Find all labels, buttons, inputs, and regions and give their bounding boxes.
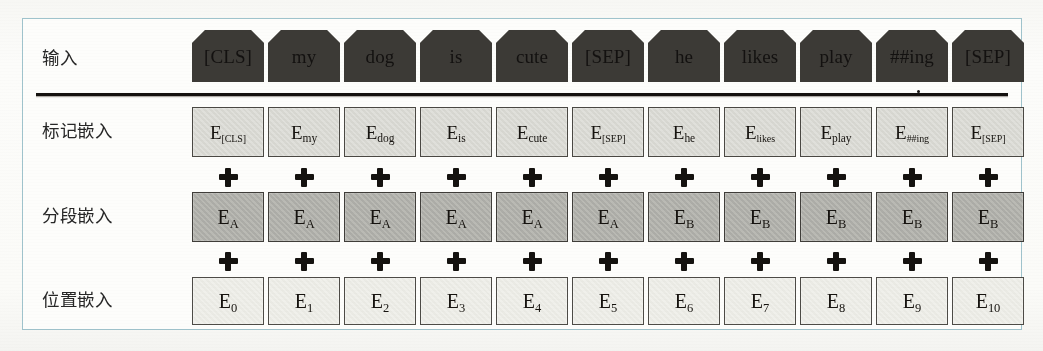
segment-embedding-cell[interactable]: EB: [876, 192, 948, 242]
segment-embedding-cell[interactable]: EA: [496, 192, 568, 242]
segment-embedding-cell[interactable]: EB: [648, 192, 720, 242]
embedding-base: E: [599, 290, 611, 312]
embedding-symbol: E[CLS]: [210, 123, 246, 142]
plus-operator-cell: [192, 250, 264, 272]
token-embedding-cell[interactable]: Edog: [344, 107, 416, 157]
input-token-cell[interactable]: cute: [496, 30, 568, 82]
embedding-subscript: 6: [687, 301, 693, 315]
segment-embedding-row: EAEAEAEAEAEAEBEBEBEBEB: [192, 192, 1024, 242]
plus-icon: [295, 252, 314, 271]
embedding-subscript: B: [914, 217, 922, 231]
input-token-cell[interactable]: [CLS]: [192, 30, 264, 82]
embedding-base: E: [895, 122, 907, 143]
token-embedding-cell[interactable]: Eplay: [800, 107, 872, 157]
embedding-subscript: 2: [383, 301, 389, 315]
position-embedding-cell[interactable]: E8: [800, 277, 872, 325]
embedding-subscript: B: [686, 217, 694, 231]
token-embedding-cell[interactable]: Ehe: [648, 107, 720, 157]
embedding-base: E: [371, 290, 383, 312]
embedding-base: E: [521, 206, 533, 228]
plus-operator-cell: [648, 250, 720, 272]
segment-embedding-cell[interactable]: EB: [952, 192, 1024, 242]
input-token-cell[interactable]: likes: [724, 30, 796, 82]
position-embedding-cell[interactable]: E4: [496, 277, 568, 325]
embedding-subscript: play: [832, 132, 851, 144]
embedding-symbol: EA: [445, 207, 466, 227]
embedding-base: E: [295, 290, 307, 312]
position-embedding-row: E0E1E2E3E4E5E6E7E8E9E10: [192, 277, 1024, 325]
embedding-symbol: E10: [976, 291, 1001, 311]
segment-embedding-cell[interactable]: EA: [572, 192, 644, 242]
embedding-symbol: E9: [903, 291, 921, 311]
input-token-cell[interactable]: [SEP]: [952, 30, 1024, 82]
position-embedding-cell[interactable]: E7: [724, 277, 796, 325]
input-token-label: my: [292, 47, 316, 66]
plus-icon: [219, 168, 238, 187]
plus-operator-cell: [420, 250, 492, 272]
embedding-subscript: 8: [839, 301, 845, 315]
embedding-symbol: Eplay: [820, 123, 851, 142]
plus-operator-cell: [268, 250, 340, 272]
position-embedding-cell[interactable]: E6: [648, 277, 720, 325]
embedding-base: E: [445, 206, 457, 228]
separator-nib: [917, 90, 920, 93]
embedding-subscript: B: [990, 217, 998, 231]
input-token-cell[interactable]: my: [268, 30, 340, 82]
position-embedding-cell[interactable]: E3: [420, 277, 492, 325]
token-embedding-cell[interactable]: E[SEP]: [572, 107, 644, 157]
plus-icon: [675, 252, 694, 271]
input-token-cell[interactable]: [SEP]: [572, 30, 644, 82]
embedding-base: E: [523, 290, 535, 312]
input-token-cell[interactable]: he: [648, 30, 720, 82]
input-token-cell[interactable]: play: [800, 30, 872, 82]
plus-operator-row-token-segment: [192, 166, 1024, 188]
embedding-subscript: is: [458, 132, 465, 144]
token-embedding-cell[interactable]: Ecute: [496, 107, 568, 157]
plus-operator-cell: [344, 250, 416, 272]
token-embedding-cell[interactable]: E[CLS]: [192, 107, 264, 157]
embedding-base: E: [976, 290, 988, 312]
segment-embedding-cell[interactable]: EA: [344, 192, 416, 242]
embedding-subscript: A: [458, 217, 467, 231]
segment-embedding-cell[interactable]: EB: [724, 192, 796, 242]
segment-embedding-cell[interactable]: EA: [192, 192, 264, 242]
plus-icon: [219, 252, 238, 271]
segment-embedding-cell[interactable]: EB: [800, 192, 872, 242]
token-embedding-cell[interactable]: E[SEP]: [952, 107, 1024, 157]
input-token-cell[interactable]: dog: [344, 30, 416, 82]
input-token-cell[interactable]: is: [420, 30, 492, 82]
segment-embedding-cell[interactable]: EA: [268, 192, 340, 242]
position-embedding-cell[interactable]: E2: [344, 277, 416, 325]
position-embedding-cell[interactable]: E0: [192, 277, 264, 325]
plus-operator-cell: [800, 166, 872, 188]
embedding-symbol: E8: [827, 291, 845, 311]
embedding-symbol: EB: [902, 207, 922, 227]
plus-operator-cell: [952, 166, 1024, 188]
position-embedding-cell[interactable]: E5: [572, 277, 644, 325]
embedding-base: E: [446, 122, 458, 143]
embedding-symbol: EB: [674, 207, 694, 227]
token-embedding-row: E[CLS]EmyEdogEisEcuteE[SEP]EheElikesEpla…: [192, 107, 1024, 157]
token-embedding-cell[interactable]: Elikes: [724, 107, 796, 157]
position-embedding-cell[interactable]: E9: [876, 277, 948, 325]
token-embedding-cell[interactable]: E##ing: [876, 107, 948, 157]
embedding-subscript: [SEP]: [982, 133, 1005, 144]
position-embedding-cell[interactable]: E1: [268, 277, 340, 325]
segment-embedding-cell[interactable]: EA: [420, 192, 492, 242]
row-label-segment-embeddings: 分段嵌入: [42, 208, 188, 226]
plus-icon: [523, 168, 542, 187]
input-token-label: cute: [516, 47, 548, 66]
embedding-subscript: B: [762, 217, 770, 231]
embedding-symbol: Eis: [446, 123, 465, 142]
embedding-symbol: Elikes: [745, 123, 775, 142]
token-embedding-cell[interactable]: Eis: [420, 107, 492, 157]
token-embedding-cell[interactable]: Emy: [268, 107, 340, 157]
input-token-cell[interactable]: ##ing: [876, 30, 948, 82]
position-embedding-cell[interactable]: E10: [952, 277, 1024, 325]
embedding-subscript: 3: [459, 301, 465, 315]
embedding-symbol: E6: [675, 291, 693, 311]
embedding-symbol: E[SEP]: [590, 123, 625, 142]
embedding-base: E: [597, 206, 609, 228]
embedding-base: E: [903, 290, 915, 312]
plus-operator-cell: [724, 250, 796, 272]
